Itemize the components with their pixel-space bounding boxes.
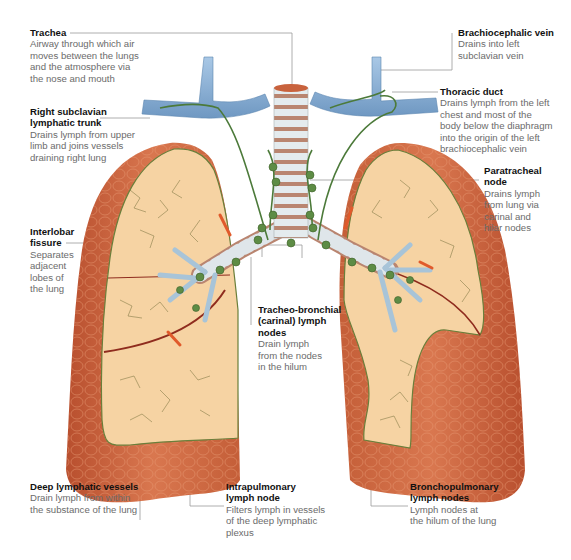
label-trachea: Trachea Airway through which air moves b…: [30, 27, 139, 84]
label-bronchopulmonary-lymph-nodes: Bronchopulmonary lymph nodes Lymph nodes…: [410, 481, 498, 527]
right-lung: [66, 143, 240, 503]
label-paratracheal-node: Paratracheal node Drains lymph from lung…: [484, 165, 542, 233]
label-brachiocephalic-vein: Brachiocephalic vein Drains into left su…: [458, 27, 554, 61]
label-right-subclavian-lymphatic-trunk: Right subclavian lymphatic trunk Drains …: [30, 106, 135, 163]
label-interlobar-fissure: Interlobar fissure Separates adjacent lo…: [30, 226, 74, 294]
label-title: Trachea: [30, 27, 139, 38]
label-tracheobronchial-lymph-nodes: Tracheo-bronchial (carinal) lymph nodes …: [258, 304, 341, 372]
label-thoracic-duct: Thoracic duct Drains lymph from the left…: [440, 86, 553, 154]
trachea: [274, 84, 308, 238]
label-deep-lymphatic-vessels: Deep lymphatic vessels Drain lymph from …: [30, 481, 138, 515]
label-intrapulmonary-lymph-node: Intrapulmonary lymph node Filters lymph …: [226, 481, 325, 538]
